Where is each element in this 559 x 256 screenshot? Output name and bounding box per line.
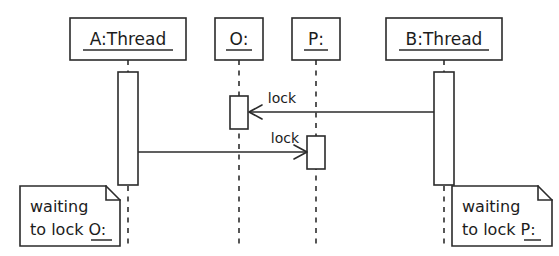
lifeline-head-label: B:Thread xyxy=(406,29,483,49)
lifeline-head-label: P: xyxy=(308,29,324,49)
activation-bars-group xyxy=(118,72,454,185)
sequence-diagram-canvas: A:Thread O: P: B:Thread xyxy=(0,0,559,256)
lifeline-head-label: A:Thread xyxy=(90,29,167,49)
message-b-lock-o[interactable]: lock xyxy=(249,90,434,119)
note-line-2-target: P: xyxy=(521,220,536,239)
activation-bar-p-object[interactable] xyxy=(307,136,325,169)
note-b-waiting[interactable]: waiting to lock P: xyxy=(452,186,552,246)
note-line-1: waiting xyxy=(30,197,88,216)
note-line-2: to lock P: xyxy=(462,220,536,239)
activation-bar-o-object[interactable] xyxy=(230,96,248,129)
note-a-waiting[interactable]: waiting to lock O: xyxy=(20,186,120,246)
lifeline-head-o-object[interactable]: O: xyxy=(215,18,263,60)
activation-bar-b-thread[interactable] xyxy=(434,72,454,185)
lifelines-group xyxy=(128,60,444,248)
lifeline-head-p-object[interactable]: P: xyxy=(292,18,340,60)
note-line-2-target: O: xyxy=(89,220,107,239)
note-line-1: waiting xyxy=(462,197,520,216)
message-label: lock xyxy=(271,130,300,146)
message-label: lock xyxy=(268,90,297,106)
lifeline-head-b-thread[interactable]: B:Thread xyxy=(386,18,502,60)
diagram-svg: A:Thread O: P: B:Thread xyxy=(0,0,559,256)
activation-bar-a-thread[interactable] xyxy=(118,72,138,185)
message-a-lock-p[interactable]: lock xyxy=(138,130,307,159)
lifeline-head-a-thread[interactable]: A:Thread xyxy=(70,18,186,60)
note-line-2-prefix: to lock xyxy=(462,220,521,239)
note-line-2-prefix: to lock xyxy=(30,220,89,239)
lifeline-head-label: O: xyxy=(230,29,249,49)
note-line-2: to lock O: xyxy=(30,220,106,239)
